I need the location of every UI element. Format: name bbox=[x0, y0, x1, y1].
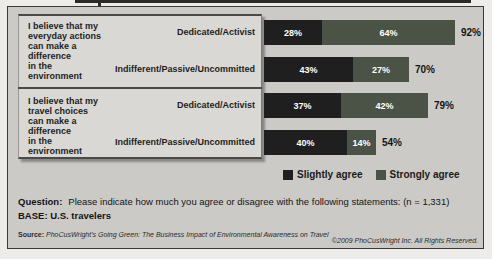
bar-segment-strongly-agree: 27% bbox=[353, 57, 409, 82]
legend-label: Strongly agree bbox=[390, 169, 460, 180]
bar-total-label: 92% bbox=[461, 27, 481, 38]
bar-row: 43% 27% 70% bbox=[264, 57, 435, 82]
chart-figure: I believe that my everyday actions can m… bbox=[0, 0, 492, 259]
bar-segment-strongly-agree: 42% bbox=[341, 93, 428, 118]
legend-swatch-slightly-agree bbox=[283, 170, 293, 180]
bar-row: 28% 64% 92% bbox=[264, 20, 481, 45]
question-line: Question:Please indicate how much you ag… bbox=[18, 196, 473, 207]
category-label: Dedicated/Activist bbox=[18, 100, 262, 110]
bar-total-label: 54% bbox=[382, 137, 402, 148]
cropped-title-remnant bbox=[75, 0, 471, 3]
bar-segment-slightly-agree: 40% bbox=[264, 130, 347, 155]
question-label: Question: bbox=[18, 196, 62, 207]
category-label: Indifferent/Passive/Uncommitted bbox=[18, 137, 262, 147]
legend-item-strongly-agree: Strongly agree bbox=[376, 169, 460, 180]
bar-segment-slightly-agree: 37% bbox=[264, 93, 341, 118]
legend-item-slightly-agree: Slightly agree bbox=[283, 169, 363, 180]
category-label: Indifferent/Passive/Uncommitted bbox=[18, 64, 262, 74]
legend: Slightly agree Strongly agree bbox=[283, 169, 460, 180]
bar-segment-strongly-agree: 64% bbox=[322, 20, 455, 45]
bar-total-label: 79% bbox=[434, 100, 454, 111]
category-label: Dedicated/Activist bbox=[18, 27, 262, 37]
base-line: BASE: U.S. travelers bbox=[18, 210, 111, 221]
bar-total-label: 70% bbox=[415, 64, 435, 75]
source-label: Source: bbox=[18, 231, 44, 238]
group-separator-line bbox=[18, 87, 262, 89]
copyright-text: ©2009 PhoCusWright Inc. All Rights Reser… bbox=[332, 237, 478, 244]
legend-swatch-strongly-agree bbox=[376, 170, 386, 180]
question-text: Please indicate how much you agree or di… bbox=[68, 196, 449, 207]
source-line: Source:PhoCusWright's Going Green: The B… bbox=[18, 231, 329, 238]
legend-label: Slightly agree bbox=[297, 169, 363, 180]
bar-row: 40% 14% 54% bbox=[264, 130, 402, 155]
bar-segment-strongly-agree: 14% bbox=[347, 130, 376, 155]
source-text: PhoCusWright's Going Green: The Business… bbox=[46, 231, 329, 238]
bar-row: 37% 42% 79% bbox=[264, 93, 454, 118]
bar-segment-slightly-agree: 28% bbox=[264, 20, 322, 45]
bar-segment-slightly-agree: 43% bbox=[264, 57, 353, 82]
